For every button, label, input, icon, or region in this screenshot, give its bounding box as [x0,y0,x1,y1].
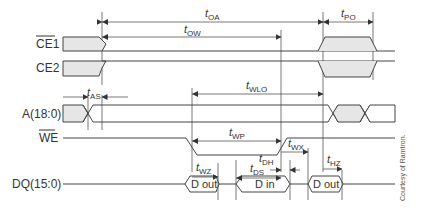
ce2-waveform [63,61,395,77]
timing-diagram: CE1 CE2 A(18:0) WE DQ(15:0) [0,0,421,218]
ce2-label: CE2 [36,61,60,75]
t-wlo-label: tWLO [246,79,267,94]
we-waveform [63,138,395,155]
t-wp-label: tWP [229,126,245,141]
addr-label: A(18:0) [22,107,61,121]
dq-label: DQ(15:0) [12,177,61,191]
t-oa-label: tOA [205,7,220,22]
reference-lines [88,12,373,172]
t-dh-label: tDH [259,152,274,167]
t-ow-label: tOW [184,23,201,38]
timing-labels: tOA tOW tPO tAS tWLO tWP tWX tWZ tDH tDS… [87,7,356,177]
addr-waveform [63,105,395,122]
t-wz-label: tWZ [196,161,212,176]
t-hz-label: tHZ [327,153,341,168]
t-as-label: tAS [87,86,101,101]
credit-text: Courtesy of Ramtron. [399,134,407,201]
t-po-label: tPO [341,7,356,22]
ce1-label: CE1 [36,37,60,51]
t-wx-label: tWX [288,137,305,152]
dout2-label: D out [313,178,339,190]
din-label: D in [255,178,275,190]
dq-waveform: D out D in D out [63,176,395,192]
signal-labels: CE1 CE2 A(18:0) WE DQ(15:0) [12,36,61,191]
ce1-waveform [63,37,395,51]
we-label: WE [39,131,58,145]
dout1-label: D out [191,178,217,190]
